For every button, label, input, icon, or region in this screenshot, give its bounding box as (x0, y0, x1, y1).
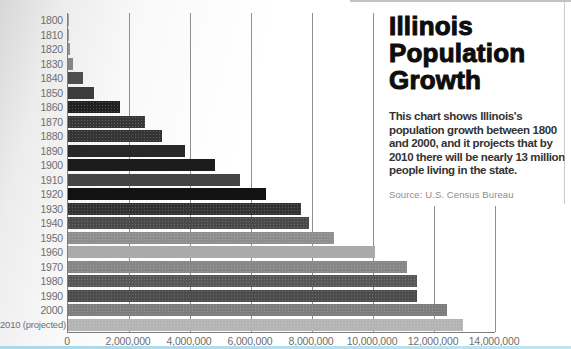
y-axis-label-1820: 1820 (0, 42, 63, 57)
illinois-population-chart: 1800181018201830184018501860187018801890… (0, 0, 571, 349)
scan-edge-top (350, 0, 571, 2)
y-axis-label-1940: 1940 (0, 216, 63, 231)
bar-1840 (68, 72, 83, 84)
scan-edge-right (564, 2, 565, 204)
description-line: and 2000, and it projects that by (389, 137, 571, 151)
bar-1830 (68, 58, 73, 70)
y-axis-label-1850: 1850 (0, 86, 63, 101)
y-axis-label-1810: 1810 (0, 28, 63, 43)
bar-1970 (68, 261, 407, 273)
bar-2010-projected (68, 319, 463, 331)
y-axis-label-1900: 1900 (0, 158, 63, 173)
y-axis-label-1830: 1830 (0, 57, 63, 72)
y-axis-label-1930: 1930 (0, 202, 63, 217)
y-axis-label-2010-projected: 2010 (projected) (0, 318, 63, 333)
bar-1950 (68, 232, 334, 244)
y-axis-label-1960: 1960 (0, 245, 63, 260)
y-axis-label-1840: 1840 (0, 71, 63, 86)
bar-1890 (68, 145, 185, 157)
title-line-1: Illinois (389, 13, 571, 40)
source-note: Source: U.S. Census Bureau (389, 189, 571, 200)
description-line: population growth between 1800 (389, 124, 571, 138)
y-axis-label-1880: 1880 (0, 129, 63, 144)
title-line-3: Growth (389, 67, 571, 94)
y-axis-label-1980: 1980 (0, 274, 63, 289)
bar-1810 (68, 29, 69, 41)
bar-2000 (68, 304, 447, 316)
description-line: people living in the state. (389, 164, 571, 178)
bar-1860 (68, 101, 120, 113)
bar-1990 (68, 290, 417, 302)
bar-1910 (68, 174, 240, 186)
text-panel: Illinois Population Growth This chart sh… (377, 5, 571, 206)
bar-1980 (68, 275, 417, 287)
chart-description: This chart shows Illinois's population g… (389, 110, 571, 178)
title-line-2: Population (389, 40, 571, 67)
description-line: 2010 there will be nearly 13 million (389, 151, 571, 165)
y-axis-label-1920: 1920 (0, 187, 63, 202)
y-axis-label-1860: 1860 (0, 100, 63, 115)
y-axis-label-1970: 1970 (0, 260, 63, 275)
y-axis-label-1990: 1990 (0, 289, 63, 304)
bar-1800 (68, 14, 69, 26)
bar-1930 (68, 203, 301, 215)
bar-1900 (68, 159, 215, 171)
y-axis-label-1910: 1910 (0, 173, 63, 188)
y-axis-label-1950: 1950 (0, 231, 63, 246)
bar-1880 (68, 130, 162, 142)
bar-1940 (68, 217, 309, 229)
bar-1960 (68, 246, 375, 258)
chart-title: Illinois Population Growth (389, 13, 571, 94)
y-axis-label-2000: 2000 (0, 303, 63, 318)
y-axis-label-1800: 1800 (0, 13, 63, 28)
bar-1870 (68, 116, 145, 128)
bar-1920 (68, 188, 266, 200)
bar-1850 (68, 87, 94, 99)
y-axis-label-1890: 1890 (0, 144, 63, 159)
y-axis-label-1870: 1870 (0, 115, 63, 130)
description-line: This chart shows Illinois's (389, 110, 571, 124)
bar-1820 (68, 43, 70, 55)
